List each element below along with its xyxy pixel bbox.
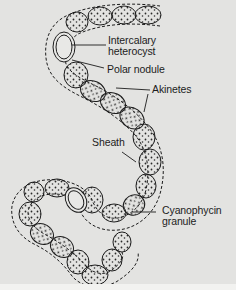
bottom-margin xyxy=(0,284,236,290)
label-sheath: Sheath xyxy=(92,137,125,148)
label-cyanophycin-granule: Cyanophycin granule xyxy=(162,205,222,227)
label-akinetes: Akinetes xyxy=(152,84,191,95)
label-intercalary-heterocyst: Intercalary heterocyst xyxy=(108,35,156,57)
label-polar-nodule: Polar nodule xyxy=(107,64,165,75)
filament-diagram: Intercalary heterocyst Polar nodule Akin… xyxy=(0,0,236,290)
